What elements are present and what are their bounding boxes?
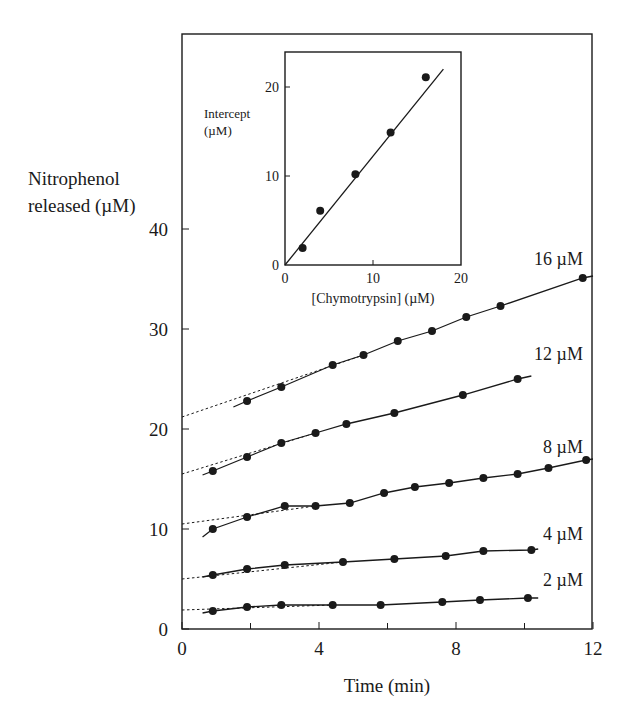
series-12um [182,375,531,475]
data-point [209,467,217,475]
data-point [277,383,285,391]
y-tick-label: 30 [149,319,168,340]
data-point [394,337,402,345]
data-point [209,607,217,615]
inset-data-point [422,73,430,81]
y-tick-label: 40 [149,219,168,240]
x-tick-label: 12 [584,638,603,659]
data-point [579,274,587,282]
data-point [514,470,522,478]
data-point [329,601,337,609]
series-label: 8 µM [543,437,583,457]
series-label: 2 µM [543,570,583,590]
main-x-axis-label: Time (min) [344,675,430,697]
data-point [277,439,285,447]
data-point [243,453,251,461]
data-point [497,302,505,310]
data-point [582,456,590,464]
main-series-group [182,274,593,615]
series-2um [182,594,538,615]
data-point [527,546,535,554]
data-point [442,552,450,560]
data-point [360,351,368,359]
series-label: 16 µM [534,249,583,269]
data-point [339,558,347,566]
inset-data-point [299,244,307,252]
x-tick-label: 4 [314,638,324,659]
data-point [243,513,251,521]
data-point [479,474,487,482]
chart: 04812010203040 16 µM12 µM8 µM4 µM2 µM Ni… [0,0,627,723]
data-point [243,565,251,573]
y-tick-label: 20 [149,419,168,440]
fit-curve [203,549,539,577]
data-point [514,375,522,383]
inset-y-axis-label-line2: (µM) [204,123,232,138]
main-y-axis-label-line2: released (µM) [28,195,135,217]
data-point [524,594,532,602]
fit-curve [203,598,539,613]
y-tick-label: 0 [159,619,169,640]
data-point [312,502,320,510]
data-point [390,409,398,417]
x-tick-label: 8 [451,638,461,659]
data-point [209,525,217,533]
inset-data-point [387,128,395,136]
data-point [380,489,388,497]
data-point [411,483,419,491]
data-point [438,598,446,606]
inset-x-tick-label: 10 [366,271,380,286]
data-point [476,596,484,604]
series-label: 4 µM [543,524,583,544]
data-point [544,464,552,472]
series-8um [182,456,593,537]
data-point [445,479,453,487]
inset-data-point [316,207,324,215]
data-point [342,420,350,428]
series-label: 12 µM [534,344,583,364]
data-point [479,547,487,555]
inset-y-axis-label-line1: Intercept [204,106,251,121]
data-point [281,561,289,569]
inset-y-tick-label: 0 [272,258,279,273]
inset-x-axis-label: [Chymotrypsin] (µM) [312,291,435,307]
fit-curve [203,376,532,475]
data-point [281,502,289,510]
fit-curve [203,459,593,537]
series-labels: 16 µM12 µM8 µM4 µM2 µM [534,249,583,590]
data-point [312,429,320,437]
inset-y-tick-label: 10 [265,169,279,184]
data-point [277,601,285,609]
main-y-axis-label-line1: Nitrophenol [28,168,120,189]
data-point [390,555,398,563]
data-point [428,327,436,335]
data-point [346,499,354,507]
data-point [459,391,467,399]
data-point [243,603,251,611]
data-point [377,601,385,609]
inset-x-tick-label: 20 [454,271,468,286]
series-4um [182,546,538,579]
data-point [209,571,217,579]
data-point [462,313,470,321]
data-point [329,361,337,369]
data-point [243,397,251,405]
inset-y-tick-label: 20 [265,80,279,95]
x-tick-label: 0 [177,638,187,659]
inset-x-tick-label: 0 [282,271,289,286]
y-tick-label: 10 [149,519,168,540]
inset-data-point [351,170,359,178]
